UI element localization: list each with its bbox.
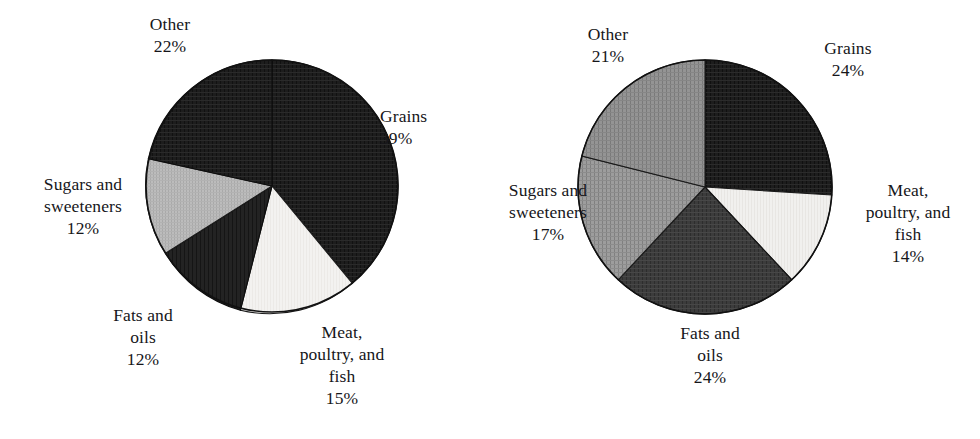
pie-label-fats-line2: oils bbox=[640, 345, 780, 367]
pie-label-sugars: Sugars and sweeteners 12% bbox=[8, 174, 158, 240]
pie-label-grains-name: Grains bbox=[788, 38, 908, 60]
pie-label-fats: Fats and oils 24% bbox=[640, 323, 780, 389]
pie-label-sugars: Sugars and sweeteners 17% bbox=[468, 180, 628, 246]
pie-label-grains: Grains 24% bbox=[788, 38, 908, 82]
two-pie-chart-figure: Other 22% Grains 39% Meat, poultry, and … bbox=[0, 0, 980, 439]
pie-label-other-pct: 21% bbox=[543, 46, 673, 68]
pie-label-fats-line1: Fats and bbox=[78, 305, 208, 327]
pie-label-sugars-line1: Sugars and bbox=[8, 174, 158, 196]
pie-label-other: Other 22% bbox=[100, 14, 240, 58]
pie-label-grains: Grains 39% bbox=[380, 106, 490, 150]
pie-label-other-name: Other bbox=[543, 24, 673, 46]
pie-label-sugars-line2: sweeteners bbox=[468, 202, 628, 224]
pie-label-fats-pct: 12% bbox=[78, 349, 208, 371]
pie-label-other-pct: 22% bbox=[100, 36, 240, 58]
pie-label-meat-line1: Meat, bbox=[838, 180, 978, 202]
pie-label-sugars-line2: sweeteners bbox=[8, 196, 158, 218]
pie-label-grains-name: Grains bbox=[380, 106, 490, 128]
pie-label-meat: Meat, poultry, and fish 14% bbox=[838, 180, 978, 268]
pie-label-fats-line2: oils bbox=[78, 327, 208, 349]
pie-label-fats-pct: 24% bbox=[640, 367, 780, 389]
pie-label-meat-line2: poultry, and bbox=[838, 202, 978, 224]
pie-label-other-name: Other bbox=[100, 14, 240, 36]
pie-label-meat-pct: 14% bbox=[838, 246, 978, 268]
pie-label-fats-line1: Fats and bbox=[640, 323, 780, 345]
pie-label-meat-line1: Meat, bbox=[272, 322, 412, 344]
pie-chart-panel-right: Other 21% Grains 24% Meat, poultry, and … bbox=[490, 0, 980, 439]
pie-label-sugars-pct: 17% bbox=[468, 224, 628, 246]
pie-label-meat: Meat, poultry, and fish 15% bbox=[272, 322, 412, 410]
pie-label-meat-pct: 15% bbox=[272, 388, 412, 410]
pie-label-meat-line3: fish bbox=[838, 224, 978, 246]
pie-label-other: Other 21% bbox=[543, 24, 673, 68]
pie-label-meat-line3: fish bbox=[272, 366, 412, 388]
pie-label-grains-pct: 24% bbox=[788, 60, 908, 82]
pie-label-grains-pct: 39% bbox=[380, 128, 490, 150]
pie-label-fats: Fats and oils 12% bbox=[78, 305, 208, 371]
pie-label-sugars-line1: Sugars and bbox=[468, 180, 628, 202]
pie-label-sugars-pct: 12% bbox=[8, 218, 158, 240]
pie-label-meat-line2: poultry, and bbox=[272, 344, 412, 366]
pie-chart-panel-left: Other 22% Grains 39% Meat, poultry, and … bbox=[0, 0, 490, 439]
